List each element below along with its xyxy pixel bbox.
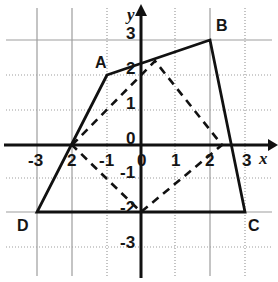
- vertex-label-d: D: [17, 218, 29, 234]
- y-tick-label-minus3: -3: [120, 234, 135, 251]
- coordinate-plot: [0, 0, 278, 282]
- y-tick-label-plus1: 1: [126, 95, 135, 112]
- vertex-label-b: B: [216, 18, 228, 34]
- x-tick-label-plus3: 3: [242, 152, 251, 169]
- y-tick-label-minus2: -2: [120, 199, 135, 216]
- vertex-label-c: C: [248, 218, 260, 234]
- x-axis-name: x: [259, 150, 268, 167]
- y-axis-name: y: [127, 6, 135, 23]
- y-tick-label-plus2: 2: [126, 60, 135, 77]
- y-tick-label-minus1: -1: [120, 164, 135, 181]
- axes: [4, 4, 278, 278]
- dashed-inscribed-quadrilateral: [72, 61, 222, 212]
- y-tick-label-plus3: 3: [126, 25, 135, 42]
- x-tick-label-zero: 0: [137, 152, 146, 169]
- y-tick-label-zero: 0: [126, 130, 135, 147]
- x-tick-label-minus3: -3: [28, 152, 43, 169]
- x-tick-label-minus1: -1: [99, 152, 114, 169]
- coordinate-plane-figure: -3 2 -1 0 1 2 3 3 2 1 0 -1 -2 -3 x y A B…: [0, 0, 278, 282]
- x-tick-label-minus2: 2: [67, 152, 76, 169]
- vertex-label-a: A: [95, 55, 107, 71]
- x-axis-arrowhead: [268, 139, 278, 151]
- y-axis-arrowhead: [135, 4, 147, 16]
- x-tick-label-plus1: 1: [171, 152, 180, 169]
- x-tick-label-plus2: 2: [205, 152, 214, 169]
